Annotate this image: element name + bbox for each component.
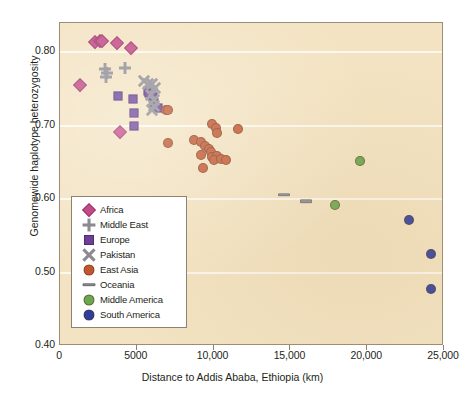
x-axis-tick-label: 15,000 xyxy=(274,349,306,361)
legend: AfricaMiddle EastEuropePakistanEast Asia… xyxy=(71,196,187,328)
x-axis-ticks: 0500010,00015,00020,00025,000 xyxy=(0,0,465,393)
circle-icon xyxy=(78,263,100,277)
circle-icon xyxy=(78,308,100,322)
legend-item-south-america[interactable]: South America xyxy=(78,307,180,322)
x-axis-tick-label: 20,000 xyxy=(350,349,382,361)
legend-item-africa[interactable]: Africa xyxy=(78,202,180,217)
legend-item-label: South America xyxy=(100,309,160,320)
scatter-plot-figure: 0.400.500.600.700.80 Genomewide haplotyp… xyxy=(0,0,465,393)
legend-item-label: Oceania xyxy=(100,279,134,290)
x-icon xyxy=(78,248,100,262)
legend-item-pakistan[interactable]: Pakistan xyxy=(78,247,180,262)
diamond-icon xyxy=(78,203,100,217)
legend-item-label: East Asia xyxy=(100,264,138,275)
legend-item-middle-america[interactable]: Middle America xyxy=(78,292,180,307)
legend-item-label: Europe xyxy=(100,234,130,245)
x-axis-tick-label: 0 xyxy=(56,349,62,361)
legend-item-label: Middle East xyxy=(100,219,148,230)
legend-item-label: Middle America xyxy=(100,294,163,305)
legend-item-label: Pakistan xyxy=(100,249,135,260)
plus-icon xyxy=(78,218,100,232)
legend-item-oceania[interactable]: Oceania xyxy=(78,277,180,292)
x-axis-tick-label: 25,000 xyxy=(427,349,459,361)
legend-item-east-asia[interactable]: East Asia xyxy=(78,262,180,277)
legend-item-middle-east[interactable]: Middle East xyxy=(78,217,180,232)
x-axis-tick-label: 10,000 xyxy=(197,349,229,361)
circle-icon xyxy=(78,293,100,307)
legend-item-label: Africa xyxy=(100,204,123,215)
bar-icon xyxy=(78,278,100,292)
square-icon xyxy=(78,233,100,247)
legend-item-europe[interactable]: Europe xyxy=(78,232,180,247)
x-axis-title: Distance to Addis Ababa, Ethiopia (km) xyxy=(0,371,465,383)
x-axis-tick-label: 5000 xyxy=(124,349,147,361)
